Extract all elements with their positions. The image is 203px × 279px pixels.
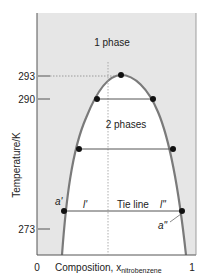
dot-a-prime [61, 208, 67, 214]
a-double-prime-label: a" [158, 220, 168, 231]
x-axis-label-main: Composition, x [55, 262, 121, 273]
tie-line-label: Tie line [117, 199, 149, 210]
dot-a-double-prime [179, 208, 185, 214]
ytick-290: 290 [18, 94, 35, 105]
one-phase-label: 1 phase [94, 37, 130, 48]
dot-290-left [94, 96, 100, 102]
xtick-1: 1 [189, 262, 195, 273]
critical-point-dot [118, 72, 124, 78]
two-phase-label: 2 phases [106, 119, 147, 130]
x-axis-label: Composition, xnitrobenzene [55, 262, 162, 274]
xtick-0: 0 [34, 262, 40, 273]
ytick-293: 293 [18, 71, 35, 82]
a-prime-label: a' [55, 196, 64, 207]
dot-290-right [150, 96, 156, 102]
y-axis-label: Temperature/K [11, 132, 22, 198]
phase-diagram: 1 phase 2 phases 293 290 273 Temperature… [0, 0, 203, 279]
l-double-prime-label: l" [160, 199, 166, 210]
ytick-273: 273 [18, 224, 35, 235]
dot-mid-left [76, 146, 82, 152]
x-axis-label-subscript: nitrobenzene [121, 267, 162, 274]
dot-mid-right [170, 146, 176, 152]
